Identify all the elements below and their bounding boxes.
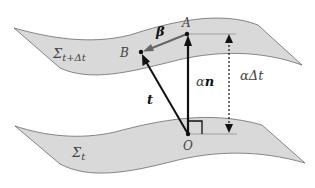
surface-lower (15, 117, 305, 173)
label-alpha-dt: αΔt (240, 68, 264, 83)
label-O: O (183, 139, 193, 153)
label-B: B (119, 46, 129, 60)
label-alpha-n: αn (196, 74, 214, 89)
label-A: A (181, 16, 191, 30)
point-A (185, 32, 189, 36)
foliation-diagram: A B O Σt+Δt Σt β t αn αΔt (0, 0, 315, 188)
point-B (139, 50, 143, 54)
label-beta: β (155, 24, 165, 39)
label-t: t (147, 92, 153, 107)
point-O (186, 132, 190, 136)
